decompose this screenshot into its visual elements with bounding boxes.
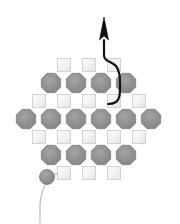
site-2-4[interactable] (133, 95, 146, 108)
tether-layer (40, 170, 59, 224)
node-1-0[interactable] (41, 73, 60, 92)
lattice-row-6 (58, 167, 121, 180)
node-1-1[interactable] (66, 73, 85, 92)
lattice-diagram (0, 0, 180, 223)
lattice-row-0 (58, 59, 121, 72)
site-4-4[interactable] (133, 131, 146, 144)
tether-node[interactable] (40, 170, 55, 185)
lattice-row-2 (33, 95, 146, 108)
site-0-0[interactable] (58, 59, 71, 72)
site-4-0[interactable] (33, 131, 46, 144)
site-4-1[interactable] (58, 131, 71, 144)
lattice-row-4 (33, 131, 146, 144)
site-6-0[interactable] (58, 167, 71, 180)
node-5-3[interactable] (116, 145, 135, 164)
site-2-1[interactable] (58, 95, 71, 108)
node-3-3[interactable] (91, 109, 110, 128)
site-4-3[interactable] (108, 131, 121, 144)
lattice-row-3 (16, 109, 160, 128)
lattice-row-1 (41, 73, 135, 92)
lattice-row-5 (41, 145, 135, 164)
node-1-2[interactable] (91, 73, 110, 92)
node-3-0[interactable] (16, 109, 35, 128)
node-5-2[interactable] (91, 145, 110, 164)
diagram-canvas (0, 0, 180, 223)
lattice-layer (16, 59, 160, 180)
node-3-4[interactable] (116, 109, 135, 128)
site-6-2[interactable] (108, 167, 121, 180)
probe-arrow[interactable] (100, 17, 109, 40)
tether-wire (40, 184, 45, 223)
node-3-1[interactable] (41, 109, 60, 128)
site-4-2[interactable] (83, 131, 96, 144)
node-5-1[interactable] (66, 145, 85, 164)
site-0-1[interactable] (83, 59, 96, 72)
site-2-0[interactable] (33, 95, 46, 108)
site-2-2[interactable] (83, 95, 96, 108)
node-5-0[interactable] (41, 145, 60, 164)
site-6-1[interactable] (83, 167, 96, 180)
node-3-5[interactable] (141, 109, 160, 128)
node-3-2[interactable] (66, 109, 85, 128)
